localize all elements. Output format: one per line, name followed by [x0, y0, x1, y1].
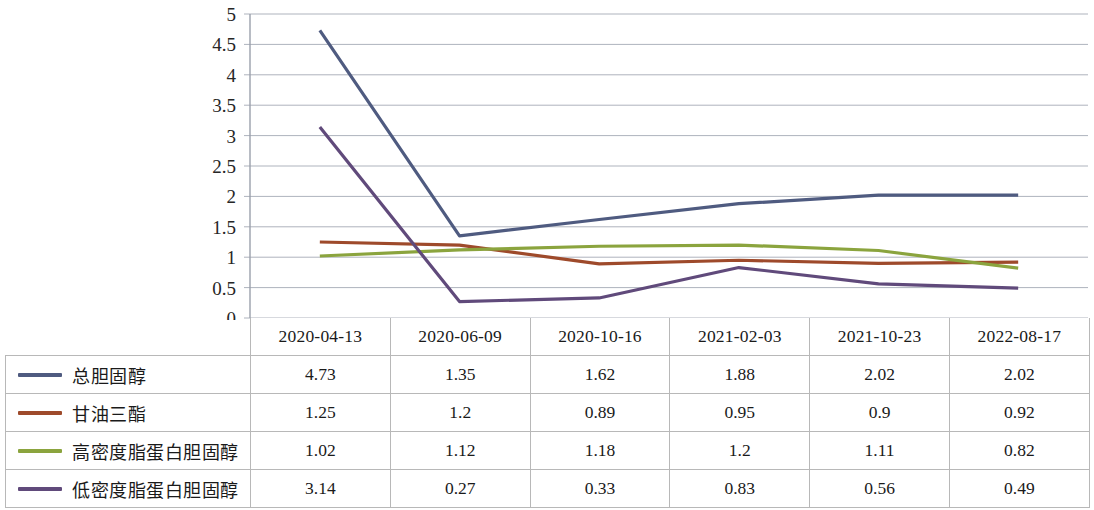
- column-header-3: 2020-10-16: [530, 318, 670, 356]
- table-row: 低密度脂蛋白胆固醇3.140.270.330.830.560.49: [6, 470, 1090, 508]
- y-tick-label: 5: [227, 4, 237, 25]
- table-cell: 0.33: [530, 470, 670, 508]
- series-line-4: [320, 127, 1018, 301]
- table-cell: 0.27: [390, 470, 530, 508]
- data-table: 2020-04-132020-06-092020-10-162021-02-03…: [5, 318, 1090, 508]
- series-line-1: [320, 30, 1018, 236]
- table-cell: 1.88: [670, 356, 810, 394]
- y-tick-label: 0.5: [212, 278, 236, 299]
- table-cell: 0.92: [949, 394, 1089, 432]
- gridlines-group: [244, 14, 1088, 318]
- legend-line-swatch-icon: [18, 411, 62, 415]
- table-cell: 1.62: [530, 356, 670, 394]
- table-cell: 2.02: [810, 356, 950, 394]
- legend-row-1: 总胆固醇: [6, 356, 251, 394]
- table-cell: 0.83: [670, 470, 810, 508]
- table-header-row: 2020-04-132020-06-092020-10-162021-02-03…: [6, 318, 1090, 356]
- y-tick-label: 3.5: [212, 95, 236, 116]
- table-cell: 0.49: [949, 470, 1089, 508]
- table-body: 总胆固醇4.731.351.621.882.022.02甘油三酯1.251.20…: [6, 356, 1090, 508]
- column-header-2: 2020-06-09: [390, 318, 530, 356]
- table-header: 2020-04-132020-06-092020-10-162021-02-03…: [6, 318, 1090, 356]
- table-row: 总胆固醇4.731.351.621.882.022.02: [6, 356, 1090, 394]
- table-cell: 1.2: [390, 394, 530, 432]
- column-header-5: 2021-10-23: [810, 318, 950, 356]
- line-chart-plot-area: 54.543.532.521.510.50: [0, 0, 1094, 320]
- table-row: 高密度脂蛋白胆固醇1.021.121.181.21.110.82: [6, 432, 1090, 470]
- table-cell: 0.56: [810, 470, 950, 508]
- y-tick-label: 4.5: [212, 34, 236, 55]
- table-cell: 0.89: [530, 394, 670, 432]
- series-label: 低密度脂蛋白胆固醇: [72, 476, 239, 502]
- table-cell: 1.25: [251, 394, 391, 432]
- series-label: 高密度脂蛋白胆固醇: [72, 438, 239, 464]
- table-cell: 1.11: [810, 432, 950, 470]
- y-tick-label: 2: [227, 186, 237, 207]
- y-tick-label: 1: [227, 247, 237, 268]
- column-header-6: 2022-08-17: [949, 318, 1089, 356]
- table-cell: 0.82: [949, 432, 1089, 470]
- series-label: 甘油三酯: [72, 400, 146, 426]
- table-cell: 1.12: [390, 432, 530, 470]
- chart-page: 54.543.532.521.510.50 2020-04-132020-06-…: [0, 0, 1094, 510]
- y-tick-label: 3: [227, 126, 237, 147]
- legend-line-swatch-icon: [18, 373, 62, 377]
- legend-line-swatch-icon: [18, 487, 62, 491]
- table-cell: 0.9: [810, 394, 950, 432]
- table-cell: 1.18: [530, 432, 670, 470]
- column-header-4: 2021-02-03: [670, 318, 810, 356]
- y-tick-labels-group: 54.543.532.521.510.50: [212, 4, 236, 320]
- y-tick-label: 1.5: [212, 217, 236, 238]
- y-tick-label: 4: [227, 65, 237, 86]
- table-row: 甘油三酯1.251.20.890.950.90.92: [6, 394, 1090, 432]
- table-cell: 3.14: [251, 470, 391, 508]
- table-cell: 1.02: [251, 432, 391, 470]
- chart-svg: 54.543.532.521.510.50: [0, 0, 1094, 320]
- table-corner-cell: [6, 318, 251, 356]
- column-header-1: 2020-04-13: [251, 318, 391, 356]
- table-cell: 0.95: [670, 394, 810, 432]
- table-cell: 4.73: [251, 356, 391, 394]
- legend-row-3: 高密度脂蛋白胆固醇: [6, 432, 251, 470]
- legend-row-4: 低密度脂蛋白胆固醇: [6, 470, 251, 508]
- table-cell: 1.35: [390, 356, 530, 394]
- series-label: 总胆固醇: [72, 362, 146, 388]
- y-tick-label: 2.5: [212, 156, 236, 177]
- table-cell: 1.2: [670, 432, 810, 470]
- legend-line-swatch-icon: [18, 449, 62, 453]
- table-cell: 2.02: [949, 356, 1089, 394]
- legend-row-2: 甘油三酯: [6, 394, 251, 432]
